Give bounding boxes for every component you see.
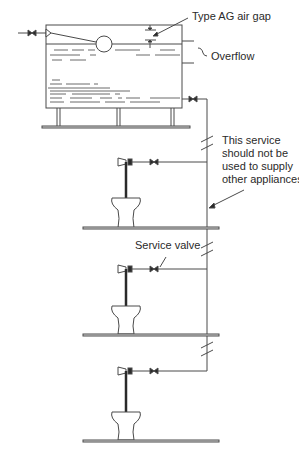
air-gap-label: Type AG air gap	[192, 10, 271, 23]
overflow-label: Overflow	[211, 50, 254, 63]
service-note-line-4: other appliances	[222, 173, 299, 186]
service-valve-label: Service valve	[135, 239, 200, 252]
service-note-line-2: should not be	[222, 147, 288, 160]
water-hatching	[48, 50, 180, 102]
cistern-stand	[42, 108, 190, 128]
float-ball-icon	[96, 36, 112, 52]
float-valve-icon	[46, 29, 51, 37]
cistern	[46, 25, 182, 108]
wc-branch-3	[83, 367, 219, 442]
note-arrow	[212, 190, 244, 206]
outlet-valve-icon	[189, 96, 197, 102]
service-note-line-3: used to supply	[222, 160, 293, 173]
overflow-pipe	[182, 41, 207, 63]
wc-branch-2	[83, 257, 219, 336]
diagram-canvas	[0, 0, 299, 453]
service-note-line-1: This service	[222, 134, 281, 147]
wc-branch-1	[83, 158, 219, 229]
inlet-valve-icon	[28, 30, 36, 36]
